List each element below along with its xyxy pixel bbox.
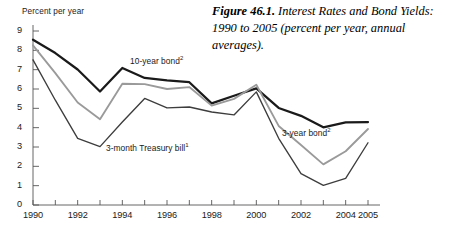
chart-svg [0,0,456,239]
x-axis-tick-label: 2000 [238,210,274,220]
x-axis-tick-label: 1996 [149,210,185,220]
x-axis-tick-label: 2002 [283,210,319,220]
y-axis-tick-label: 6 [8,83,22,93]
y-axis-tick-label: 2 [8,160,22,170]
series-label-10-year-bond-footnote: 2 [180,55,183,61]
series-label-3-year-bond-footnote: 2 [327,127,330,133]
x-axis-tick-label: 2005 [350,210,386,220]
y-axis-tick-label: 9 [8,25,22,35]
series-label-10-year-bond: 10-year bond2 [130,56,183,66]
series-line-10-year-bond [33,40,368,128]
y-axis-tick-label: 4 [8,122,22,132]
series-line-3-year-bond [33,45,368,164]
y-axis-tick-label: 1 [8,180,22,190]
y-axis-tick-label: 5 [8,102,22,112]
chart-plot-area: Percent per year 0123456789 199019921994… [0,0,456,239]
x-axis-tick-label: 1992 [60,210,96,220]
series-label-3-month-treasury-bill-footnote: 1 [185,142,188,148]
y-axis-title: Percent per year [22,7,84,16]
series-label-3-year-bond: 3-year bond2 [282,128,331,138]
chart-axes [33,25,380,205]
y-axis-tick-label: 3 [8,141,22,151]
series-label-10-year-bond-text: 10-year bond [130,56,180,66]
x-axis-tick-label: 1990 [15,210,51,220]
chart-series-group [33,40,368,186]
figure-container: Figure 46.1. Interest Rates and Bond Yie… [0,0,456,239]
series-label-3-month-treasury-bill-text: 3-month Treasury bill [106,143,185,153]
y-axis-tick-label: 0 [8,199,22,209]
x-axis-tick-label: 1994 [104,210,140,220]
series-label-3-month-treasury-bill: 3-month Treasury bill1 [106,143,189,153]
series-label-3-year-bond-text: 3-year bond [282,128,327,138]
y-axis-tick-label: 7 [8,64,22,74]
x-axis-tick-label: 1998 [194,210,230,220]
series-line-3-month-treasury-bill [33,60,368,185]
y-axis-tick-label: 8 [8,44,22,54]
